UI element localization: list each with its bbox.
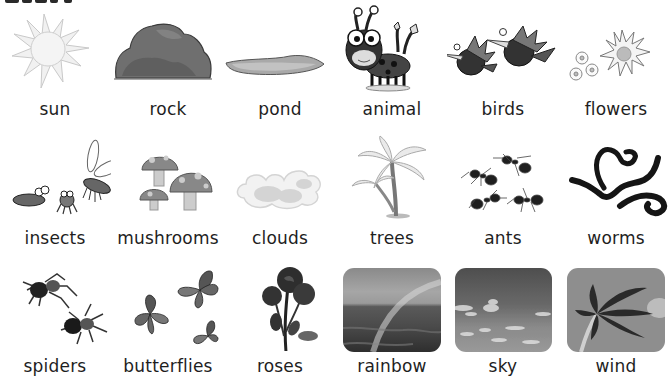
word-label: pond [224,99,336,119]
word-label: spiders [0,356,111,376]
vocab-card-clouds: clouds [224,128,336,256]
vocab-card-flowers: flowers [560,0,672,128]
word-label: butterflies [112,356,224,376]
word-label: worms [560,228,672,248]
clouds-icon [224,128,336,223]
vocab-card-trees: trees [336,128,448,256]
word-label: sun [0,99,111,119]
vocab-card-ants: ants [447,128,559,256]
butterflies-icon [112,256,224,351]
word-label: rock [112,99,224,119]
ants-icon [447,128,559,223]
trees-icon [336,128,448,223]
sky-photo [455,268,552,352]
flowers-icon [560,0,672,95]
word-label: birds [447,99,559,119]
rock-icon [112,0,224,95]
vocab-card-wind: wind [560,256,672,378]
word-label: flowers [560,99,672,119]
insects-icon [0,128,111,223]
word-label: insects [0,228,111,248]
vocab-card-sky: sky [447,256,559,378]
pond-icon [224,0,336,95]
word-label: mushrooms [112,228,224,248]
mushrooms-icon [112,128,224,223]
word-label: wind [560,356,672,376]
word-label: sky [447,356,559,376]
vocab-card-mushrooms: mushrooms [112,128,224,256]
vocab-card-sun: sun [0,0,111,128]
vocab-card-worms: worms [560,128,672,256]
vocab-card-rock: rock [112,0,224,128]
spiders-icon [0,256,111,351]
roses-icon [224,256,336,351]
vocab-card-butterflies: butterflies [112,256,224,378]
vocab-card-insects: insects [0,128,111,256]
birds-icon [447,0,559,95]
word-label: ants [447,228,559,248]
vocab-card-roses: roses [224,256,336,378]
word-label: trees [336,228,448,248]
word-label: clouds [224,228,336,248]
animal-icon [336,0,448,95]
vocab-card-birds: birds [447,0,559,128]
rainbow-photo [343,268,441,352]
sun-icon [0,0,111,95]
word-label: rainbow [336,356,448,376]
vocab-card-spiders: spiders [0,256,111,378]
vocab-card-rainbow: rainbow [336,256,448,378]
worms-icon [560,128,672,223]
vocab-card-pond: pond [224,0,336,128]
word-label: animal [336,99,448,119]
word-label: roses [224,356,336,376]
vocab-card-animal: animal [336,0,448,128]
wind-photo [567,268,665,352]
